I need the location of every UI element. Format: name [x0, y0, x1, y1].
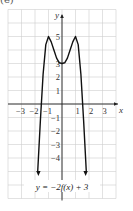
y-tick-label: 5 — [56, 32, 60, 42]
function-graph: xy−3−2−11235321−1−2−3−4 y = −2f(x) + 3 — [0, 0, 133, 211]
tick-labels: xy−3−2−11235321−1−2−3−4 — [16, 10, 123, 163]
y-axis-label: y — [54, 10, 59, 20]
equation-label: y = −2f(x) + 3 — [24, 180, 100, 192]
y-axis-arrow-icon — [60, 14, 64, 18]
x-axis-label: x — [118, 105, 123, 115]
x-tick-label: 3 — [102, 106, 106, 116]
equation-text: y = −2f(x) + 3 — [35, 182, 89, 192]
y-tick-label: 2 — [56, 72, 60, 82]
y-tick-label: −3 — [51, 140, 60, 150]
y-tick-label: 1 — [56, 86, 60, 96]
y-tick-label: −1 — [51, 113, 60, 123]
y-tick-label: −4 — [51, 153, 61, 163]
x-tick-label: 1 — [75, 106, 79, 116]
x-tick-label: −3 — [16, 106, 25, 116]
left-arrow-down-icon — [36, 171, 40, 176]
y-tick-label: −2 — [51, 126, 60, 136]
x-tick-label: 2 — [89, 106, 93, 116]
right-arrow-down-icon — [83, 171, 87, 176]
x-tick-label: −2 — [29, 106, 38, 116]
